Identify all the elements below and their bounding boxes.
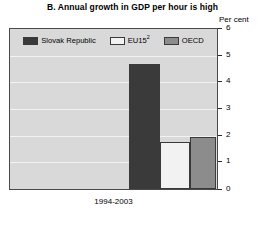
y-axis-label-2: 2 — [226, 131, 230, 139]
y-axis-unit-caption: Per cent — [219, 15, 249, 24]
bars-layer — [10, 29, 217, 189]
tick-mark-6 — [218, 28, 222, 29]
legend-swatch-oecd — [164, 37, 179, 45]
legend-item-slovak-republic: Slovak Republic — [23, 37, 95, 45]
y-axis-label-4: 4 — [226, 77, 230, 85]
tick-mark-2 — [218, 135, 222, 136]
legend-item-eu15: EU152 — [110, 37, 150, 45]
legend-swatch-eu15 — [110, 37, 125, 45]
legend-label-slovak-republic: Slovak Republic — [41, 37, 95, 45]
legend-footnote-marker-eu15: 2 — [147, 34, 150, 40]
tick-mark-3 — [218, 108, 222, 109]
plot-area: Slovak Republic EU152 OECD — [9, 28, 218, 190]
tick-mark-4 — [218, 81, 222, 82]
bar-eu15 — [160, 142, 190, 189]
legend-item-oecd: OECD — [164, 37, 204, 45]
bar-slovak-republic — [129, 64, 160, 189]
legend-label-eu15-text: EU15 — [128, 36, 147, 45]
legend-label-oecd: OECD — [182, 37, 204, 45]
y-axis-label-6: 6 — [226, 24, 230, 32]
tick-mark-1 — [218, 161, 222, 162]
y-axis-label-3: 3 — [226, 104, 230, 112]
y-axis-label-5: 5 — [226, 51, 230, 59]
tick-mark-0 — [218, 189, 222, 190]
bar-oecd — [190, 137, 216, 189]
chart-legend: Slovak Republic EU152 OECD — [10, 29, 217, 52]
legend-swatch-slovak-republic — [23, 37, 38, 45]
x-axis-category-label: 1994-2003 — [9, 197, 218, 206]
y-axis-label-1: 1 — [226, 157, 230, 165]
chart-title: B. Annual growth in GDP per hour is high — [0, 2, 265, 12]
tick-mark-5 — [218, 55, 222, 56]
legend-label-eu15: EU152 — [128, 37, 150, 45]
y-axis-label-0: 0 — [226, 185, 230, 193]
